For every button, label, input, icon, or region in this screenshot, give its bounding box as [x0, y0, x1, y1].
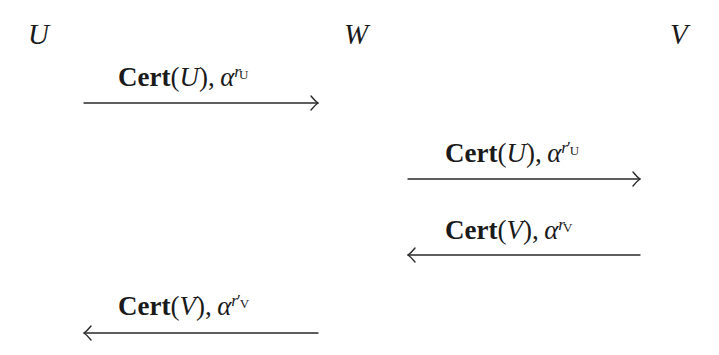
arrow-left-icon	[408, 248, 640, 262]
message-arrows	[0, 0, 719, 355]
arrow-left-icon	[84, 326, 318, 340]
arrow-right-icon	[408, 172, 640, 186]
arrow-right-icon	[84, 96, 318, 110]
